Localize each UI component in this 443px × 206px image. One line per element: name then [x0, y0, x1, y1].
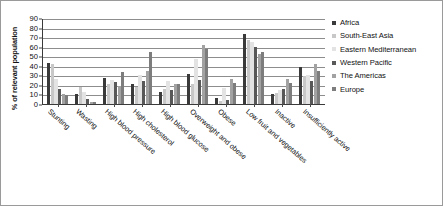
legend-item: Africa — [332, 16, 442, 29]
bar-group — [44, 19, 72, 104]
bar — [317, 71, 320, 104]
y-tick-label: 90 — [30, 15, 38, 23]
legend-item: Eastern Mediterranean — [332, 43, 442, 56]
legend-item: Europe — [332, 82, 442, 95]
x-category-label: High blood glucose — [159, 107, 211, 154]
y-tick-label: 60 — [30, 44, 38, 52]
x-category-label: Obese — [216, 107, 238, 128]
legend-label: The Americas — [340, 71, 386, 80]
x-category-label: High blood pressure — [103, 107, 157, 156]
x-category-label: Inactive — [273, 107, 298, 130]
bar — [121, 72, 124, 104]
y-axis-tick-labels: 0102030405060708090 — [23, 19, 41, 105]
bar-group — [212, 19, 240, 104]
legend-swatch — [332, 34, 336, 38]
bar — [93, 102, 96, 104]
y-tick-label: 10 — [30, 92, 38, 100]
x-category-label: Stunting — [46, 107, 72, 131]
bar-group — [128, 19, 156, 104]
bar — [233, 83, 236, 104]
legend-swatch — [332, 74, 336, 78]
y-axis-title: % of relevant population — [10, 14, 19, 124]
y-tick-label: 0 — [34, 101, 38, 109]
legend-swatch — [332, 21, 336, 25]
bar-group — [72, 19, 100, 104]
y-tick-label: 30 — [30, 73, 38, 81]
x-category-label: Insufficiently active — [301, 107, 352, 153]
bar-group — [296, 19, 324, 104]
legend-swatch — [332, 87, 336, 91]
y-tick-label: 70 — [30, 34, 38, 42]
chart-figure: % of relevant population 010203040506070… — [0, 0, 443, 206]
chart-legend: AfricaSouth-East AsiaEastern Mediterrane… — [332, 16, 442, 96]
legend-item: The Americas — [332, 69, 442, 82]
legend-label: Europe — [340, 85, 364, 94]
bar — [289, 83, 292, 104]
bar — [65, 95, 68, 104]
bar-group — [240, 19, 268, 104]
bar-group — [156, 19, 184, 104]
legend-item: South-East Asia — [332, 29, 442, 42]
legend-label: Africa — [340, 18, 359, 27]
legend-item: Western Pacific — [332, 56, 442, 69]
legend-swatch — [332, 47, 336, 51]
plot-area — [42, 19, 325, 105]
y-tick-label: 80 — [30, 25, 38, 33]
y-tick-label: 20 — [30, 82, 38, 90]
bar-group — [268, 19, 296, 104]
legend-swatch — [332, 61, 336, 65]
legend-label: Eastern Mediterranean — [340, 45, 416, 54]
bar — [261, 52, 264, 104]
bar-groups — [43, 19, 325, 104]
bar — [177, 84, 180, 104]
y-tick-label: 40 — [30, 63, 38, 71]
x-axis-category-labels: StuntingWastingHigh blood pressureHigh c… — [42, 107, 325, 203]
bar-group — [184, 19, 212, 104]
legend-label: South-East Asia — [340, 31, 393, 40]
legend-label: Western Pacific — [340, 58, 392, 67]
y-tick-label: 50 — [30, 53, 38, 61]
x-category-label: Wasting — [75, 107, 100, 131]
bar — [205, 49, 208, 104]
bar — [149, 52, 152, 104]
bar-group — [100, 19, 128, 104]
